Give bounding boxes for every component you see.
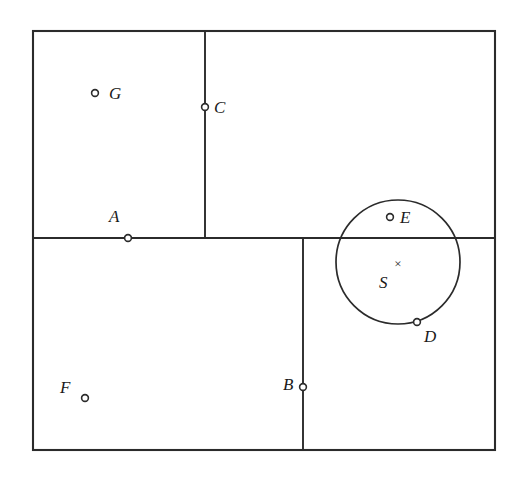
point-marker-e[interactable] [387,214,394,221]
point-label-c: C [214,99,225,116]
point-marker-c[interactable] [202,104,209,111]
point-markers [82,90,421,402]
point-label-e: E [400,209,410,226]
point-marker-d[interactable] [414,319,421,326]
point-marker-f[interactable] [82,395,89,402]
center-cross-glyph: × [394,256,401,271]
point-label-d: D [424,328,436,345]
point-label-s: S [379,274,388,291]
figure-canvas: × [0,0,516,482]
point-label-g: G [109,85,121,102]
center-cross-icon: × [394,256,401,271]
point-label-f: F [60,379,70,396]
point-marker-a[interactable] [125,235,132,242]
point-marker-b[interactable] [300,384,307,391]
outer-rectangle [33,31,495,450]
figure-root: × GCAEDBFS [0,0,516,482]
point-label-b: B [283,376,293,393]
point-marker-g[interactable] [92,90,99,97]
figure-caption [0,470,516,482]
point-label-a: A [109,208,119,225]
